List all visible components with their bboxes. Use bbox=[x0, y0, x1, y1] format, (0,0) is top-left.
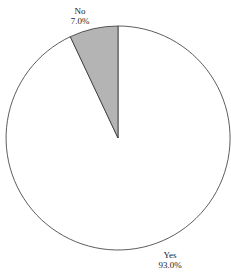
pie-chart-svg bbox=[0, 0, 231, 275]
slice-label-yes-name: Yes bbox=[150, 250, 190, 260]
slice-label-yes: Yes 93.0% bbox=[150, 250, 190, 270]
slice-label-yes-pct: 93.0% bbox=[150, 260, 190, 270]
pie-chart: No 7.0% Yes 93.0% bbox=[0, 0, 231, 275]
slice-label-no-pct: 7.0% bbox=[60, 16, 100, 26]
slice-label-no: No 7.0% bbox=[60, 6, 100, 26]
slice-label-no-name: No bbox=[60, 6, 100, 16]
